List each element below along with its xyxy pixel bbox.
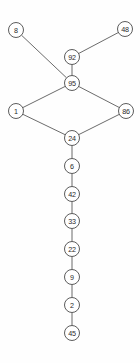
graph-node[interactable]: 9 (65, 270, 80, 285)
graph-node[interactable]: 2 (65, 298, 80, 313)
graph-edge (79, 86, 120, 107)
graph-node-circle[interactable] (119, 104, 134, 119)
graph-edge (79, 114, 120, 134)
graph-node-circle[interactable] (65, 76, 80, 91)
graph-edge (23, 114, 65, 134)
graph-node-circle[interactable] (65, 298, 80, 313)
graph-node-circle[interactable] (65, 50, 80, 65)
graph-node[interactable]: 42 (65, 187, 80, 202)
graph-edge (23, 86, 66, 107)
graph-node-circle[interactable] (65, 187, 80, 202)
graph-canvas: 84892951862464233229245 (0, 0, 140, 363)
graph-node-circle[interactable] (118, 22, 133, 37)
graph-node[interactable]: 22 (65, 242, 80, 257)
graph-diagram: 84892951862464233229245 (0, 0, 140, 363)
graph-node[interactable]: 1 (9, 104, 24, 119)
graph-node-circle[interactable] (65, 270, 80, 285)
graph-edge (21, 35, 66, 78)
graph-node-circle[interactable] (65, 214, 80, 229)
graph-node[interactable]: 24 (65, 131, 80, 146)
node-layer: 84892951862464233229245 (9, 22, 134, 341)
graph-node-circle[interactable] (9, 104, 24, 119)
graph-node[interactable]: 33 (65, 214, 80, 229)
graph-node[interactable]: 86 (119, 104, 134, 119)
graph-node-circle[interactable] (65, 131, 80, 146)
graph-node[interactable]: 48 (118, 22, 133, 37)
graph-node-circle[interactable] (65, 159, 80, 174)
graph-edge (79, 33, 119, 54)
graph-node[interactable]: 8 (9, 23, 24, 38)
graph-node[interactable]: 95 (65, 76, 80, 91)
graph-node[interactable]: 92 (65, 50, 80, 65)
graph-node-circle[interactable] (65, 326, 80, 341)
graph-node-circle[interactable] (9, 23, 24, 38)
graph-node[interactable]: 45 (65, 326, 80, 341)
graph-node[interactable]: 6 (65, 159, 80, 174)
graph-node-circle[interactable] (65, 242, 80, 257)
